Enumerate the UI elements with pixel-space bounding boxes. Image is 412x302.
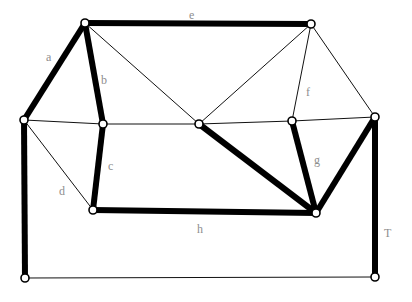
label-f: f [306,86,310,98]
vertices-group [20,19,379,282]
thin-edges-group [24,23,375,278]
label-b: b [101,74,107,86]
center-vertex [195,120,203,128]
right-middle-vertex [371,113,379,121]
bottom-right-corner-vertex [371,273,379,281]
diagram-canvas: abcdefghT [0,0,412,302]
edge-a [24,23,85,120]
lower-left-vertex [89,206,97,214]
label-T: T [384,227,391,239]
edge-top-right-apex-to-right-mid [311,24,375,117]
thick-edges-group [24,23,375,278]
edge-c [93,124,103,210]
edge-center-to-inner-right [199,121,292,124]
inner-right-vertex [288,117,296,125]
edge-bottom [25,277,375,278]
label-d: d [59,185,65,197]
inner-left-vertex [99,120,107,128]
edge-inner-right-to-right-mid [292,117,375,121]
top-left-apex-vertex [81,19,89,27]
label-c: c [108,160,113,172]
bottom-left-corner-vertex [21,274,29,282]
lower-right-vertex [312,209,320,217]
graph-svg [0,0,412,302]
label-h: h [197,223,203,235]
edge-h [93,210,316,213]
edge-left-spine [24,120,25,278]
label-a: a [46,51,51,63]
label-e: e [189,9,194,21]
edge-e [85,23,311,24]
left-middle-vertex [20,116,28,124]
edge-left-mid-to-inner-left [24,120,103,124]
label-g: g [314,154,320,166]
top-right-apex-vertex [307,20,315,28]
edge-right-mid-to-lower-right [316,117,375,213]
